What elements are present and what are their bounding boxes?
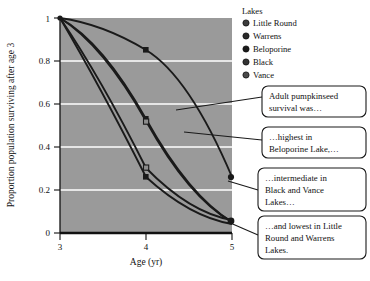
callout-box-2: …highest in Beloporine Lake,… xyxy=(262,127,366,158)
x-axis-title: Age (yr) xyxy=(130,257,162,268)
callout-4-line-2: Round and Warrens xyxy=(265,233,335,243)
callout-1-line-2: survival was… xyxy=(269,103,322,113)
legend-label-black: Black xyxy=(253,57,274,67)
marker-beloporine-x4 xyxy=(143,47,149,53)
callout-3-line-2: Black and Vance xyxy=(265,185,324,195)
callout-4-line-3: Lakes. xyxy=(265,245,288,255)
marker-vance-x4 xyxy=(144,119,149,124)
callout-4-line-1: …and lowest in Little xyxy=(265,221,342,231)
legend-marker-icon-warrens xyxy=(243,33,249,39)
y-tick-label-0.6: 0.6 xyxy=(39,99,51,109)
y-tick-label-0: 0 xyxy=(46,228,51,238)
y-tick-label-0.4: 0.4 xyxy=(39,142,51,152)
legend-marker-icon-vance xyxy=(243,72,249,78)
y-tick-label-0.2: 0.2 xyxy=(39,185,50,195)
figure-container: 0 0.2 0.4 0.6 0.8 1 3 4 5 Age (yr) Propo… xyxy=(0,0,370,281)
legend-label-vance: Vance xyxy=(253,70,274,80)
legend-label-beloporine: Beloporine xyxy=(253,44,291,54)
y-tick-label-0.8: 0.8 xyxy=(39,56,51,66)
callout-2-line-1: …highest in xyxy=(269,132,313,142)
callout-3-line-3: Lakes… xyxy=(265,197,295,207)
marker-little-round-x4 xyxy=(144,165,149,170)
legend-label-warrens: Warrens xyxy=(253,31,282,41)
callout-box-4: …and lowest in Little Round and Warrens … xyxy=(258,216,366,259)
x-tick-label-3: 3 xyxy=(58,242,63,252)
callout-box-1: Adult pumpkinseed survival was… xyxy=(262,86,366,117)
legend-label-little-round: Little Round xyxy=(253,18,297,28)
y-tick-label-1: 1 xyxy=(46,14,51,24)
legend-marker-icon-beloporine xyxy=(243,46,249,52)
legend-marker-icon-black xyxy=(243,59,249,65)
marker-warrens-x4 xyxy=(143,174,149,180)
callout-1-line-1: Adult pumpkinseed xyxy=(269,91,339,101)
legend-marker-icon-little-round xyxy=(243,20,249,26)
marker-origin xyxy=(57,15,62,20)
callout-2-line-2: Beloporine Lake,… xyxy=(269,144,339,154)
callout-box-3: …intermediate in Black and Vance Lakes… xyxy=(258,168,366,211)
callout-3-line-1: …intermediate in xyxy=(265,173,327,183)
y-axis-title: Proportion population surviving after ag… xyxy=(6,43,16,208)
x-tick-label-5: 5 xyxy=(230,242,235,252)
legend-title: Lakes xyxy=(242,6,263,16)
marker-beloporine-x5 xyxy=(228,174,234,180)
x-tick-label-4: 4 xyxy=(144,242,149,252)
